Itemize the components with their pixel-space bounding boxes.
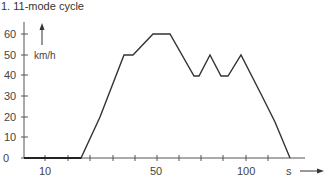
arrow-right-icon xyxy=(317,169,324,174)
y-tick-label: 0 xyxy=(3,152,9,164)
x-tick-label: 10 xyxy=(39,165,51,177)
y-tick-label: 10 xyxy=(4,131,16,143)
arrow-up-icon xyxy=(40,23,45,30)
x-unit-label: s xyxy=(286,165,292,177)
y-tick-label: 60 xyxy=(4,28,16,40)
y-tick-label: 20 xyxy=(4,111,16,123)
y-tick-label: 50 xyxy=(4,49,16,61)
y-tick-label: 40 xyxy=(4,69,16,81)
y-unit-label: km/h xyxy=(34,50,56,61)
x-tick-label: 50 xyxy=(150,165,162,177)
speed-curve xyxy=(24,34,290,158)
chart-plot: 0 10 20 30 40 50 60 km/h 10 50 100 s xyxy=(0,0,328,180)
x-tick-labels: 10 50 100 xyxy=(39,165,255,177)
y-tick-labels: 0 10 20 30 40 50 60 xyxy=(3,28,16,164)
x-tick-label: 100 xyxy=(237,165,255,177)
y-tick-label: 30 xyxy=(4,90,16,102)
